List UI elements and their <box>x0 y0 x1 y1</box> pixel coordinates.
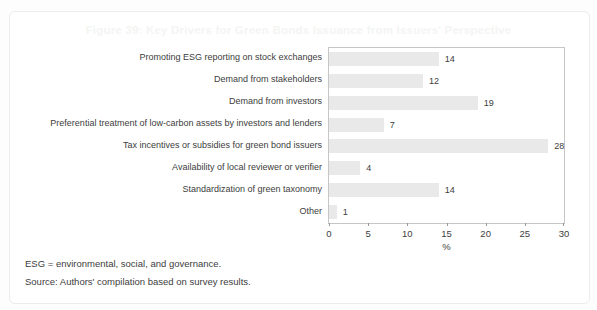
bar <box>329 161 360 175</box>
value-label: 1 <box>343 206 348 218</box>
value-label: 14 <box>445 53 455 65</box>
x-axis-tick-label: 10 <box>402 228 413 239</box>
x-axis-tick-label: 20 <box>480 228 491 239</box>
bar <box>329 118 384 132</box>
bar <box>329 205 337 219</box>
x-axis-tick-label: 5 <box>366 228 371 239</box>
category-label: Demand from stakeholders <box>0 74 322 85</box>
x-axis-tick-label: 15 <box>441 228 452 239</box>
category-label: Standardization of green taxonomy <box>0 184 322 195</box>
x-axis-tick-label: 25 <box>520 228 531 239</box>
x-axis-tick-mark <box>563 223 564 226</box>
bar <box>329 74 423 88</box>
bar <box>329 52 439 66</box>
x-axis-title: % <box>329 241 564 252</box>
x-axis-tick-mark <box>486 223 487 226</box>
value-label: 19 <box>484 97 494 109</box>
bar <box>329 96 478 110</box>
category-label: Promoting ESG reporting on stock exchang… <box>0 52 322 63</box>
category-label: Other <box>0 206 322 217</box>
value-label: 14 <box>445 184 455 196</box>
x-axis-tick-mark <box>525 223 526 226</box>
value-label: 12 <box>429 75 439 87</box>
value-label: 4 <box>366 162 371 174</box>
category-label-column: Promoting ESG reporting on stock exchang… <box>0 47 322 222</box>
x-axis-tick-mark <box>368 223 369 226</box>
bar <box>329 183 439 197</box>
category-label: Availability of local reviewer or verifi… <box>0 162 322 173</box>
category-label: Preferential treatment of low-carbon ass… <box>0 118 322 129</box>
value-label: 7 <box>390 119 395 131</box>
x-axis-tick-mark <box>407 223 408 226</box>
footnote-source: Source: Authors' compilation based on su… <box>25 276 251 287</box>
category-label: Tax incentives or subsidies for green bo… <box>0 140 322 151</box>
x-axis-tick-label: 0 <box>326 228 331 239</box>
x-axis-tick-label: 30 <box>559 228 570 239</box>
bar <box>329 139 548 153</box>
x-axis-tick-mark <box>329 223 330 226</box>
footnote-definition: ESG = environmental, social, and governa… <box>25 258 221 269</box>
value-label: 28 <box>554 140 564 152</box>
category-label: Demand from investors <box>0 96 322 107</box>
bar-chart-plot-area: % 1412197284141051015202530 <box>328 47 565 224</box>
figure-title: Figure 39: Key Drivers for Green Bonds I… <box>0 24 597 36</box>
figure-page: Figure 39: Key Drivers for Green Bonds I… <box>0 0 597 310</box>
x-axis-tick-mark <box>447 223 448 226</box>
